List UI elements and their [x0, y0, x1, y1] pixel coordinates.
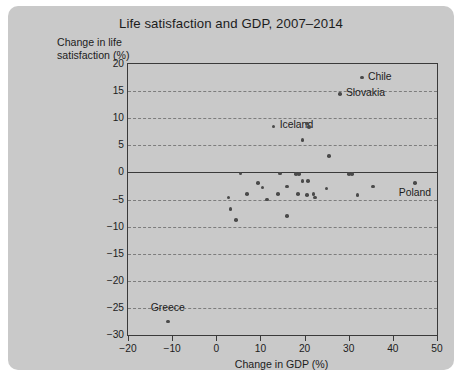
data-point [256, 181, 260, 185]
data-point-label: Greece [151, 302, 185, 313]
x-axis-tick-mark [128, 335, 129, 341]
data-point [356, 193, 360, 197]
data-point-label: Chile [368, 71, 392, 82]
x-axis-tick-mark [437, 335, 438, 341]
data-point-greece [166, 320, 170, 324]
x-axis-tick-label: −10 [152, 343, 192, 354]
x-axis-tick-mark [305, 335, 306, 341]
x-axis-tick-mark [260, 335, 261, 341]
chart-title: Life satisfaction and GDP, 2007–2014 [8, 16, 454, 31]
data-point [234, 218, 238, 222]
x-axis-label: Change in GDP (%) [127, 358, 436, 370]
data-point [306, 179, 310, 183]
data-point [239, 172, 243, 176]
data-point-slovakia [338, 92, 342, 96]
data-point [307, 125, 311, 129]
data-point [265, 198, 269, 202]
data-point [350, 172, 354, 176]
y-axis-tick-label: −30 [82, 329, 124, 340]
x-axis-tick-mark [216, 335, 217, 341]
data-point [371, 185, 375, 189]
y-axis-tick-label: −10 [82, 221, 124, 232]
data-point-poland [413, 181, 417, 185]
y-axis-tick-label: 5 [82, 139, 124, 150]
y-axis-tick-label: −25 [82, 302, 124, 313]
x-axis-tick-label: 40 [373, 343, 413, 354]
data-point-label: Poland [399, 187, 431, 198]
data-point [325, 187, 329, 191]
data-point [297, 172, 301, 176]
data-point [285, 214, 289, 218]
data-point [261, 186, 265, 190]
data-point [305, 193, 309, 197]
x-axis-tick-label: 10 [240, 343, 280, 354]
gridline [128, 145, 437, 146]
gridline [128, 200, 437, 201]
y-axis-tick-label: −15 [82, 248, 124, 259]
y-axis-tick-label: −5 [82, 194, 124, 205]
y-axis-tick-label: −20 [82, 275, 124, 286]
data-point [278, 172, 282, 176]
data-point [245, 192, 249, 196]
data-point [327, 154, 331, 158]
gridline [128, 254, 437, 255]
x-axis-tick-label: 30 [329, 343, 369, 354]
x-axis-tick-label: 20 [285, 343, 325, 354]
gridline [128, 227, 437, 228]
x-axis-tick-label: −20 [108, 343, 148, 354]
x-axis-tick-mark [349, 335, 350, 341]
y-axis-tick-label: 0 [82, 166, 124, 177]
gridline [128, 91, 437, 92]
gridline [128, 281, 437, 282]
x-axis-tick-mark [393, 335, 394, 341]
x-axis-tick-label: 50 [417, 343, 457, 354]
x-axis-tick-label: 0 [196, 343, 236, 354]
chart-figure: Life satisfaction and GDP, 2007–2014 Cha… [8, 6, 454, 370]
x-axis-tick-mark [172, 335, 173, 341]
data-point-iceland [272, 125, 276, 129]
data-point [301, 179, 305, 183]
data-point [229, 207, 233, 211]
data-point [301, 138, 305, 142]
plot-area: −30−25−20−15−10−505101520−20−10010203040… [127, 63, 438, 336]
data-point [285, 185, 289, 189]
y-axis-tick-label: 15 [82, 85, 124, 96]
y-axis-tick-label: 10 [82, 112, 124, 123]
data-point [276, 192, 280, 196]
data-point [296, 192, 300, 196]
data-point-label: Slovakia [346, 87, 385, 98]
data-point-chile [360, 76, 364, 80]
y-axis-tick-label: 20 [82, 58, 124, 69]
zero-axis-line [128, 172, 437, 173]
data-point [313, 196, 317, 200]
